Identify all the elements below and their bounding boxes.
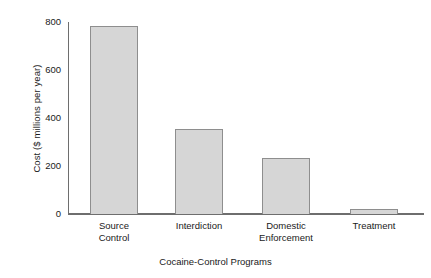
x-axis-title: Cocaine-Control Programs [0, 256, 431, 267]
x-category-label-line1: Domestic [266, 220, 306, 231]
x-category-label-interdiction: Interdiction [159, 220, 239, 232]
x-category-label-line1: Source [99, 220, 129, 231]
y-tick-label-200: 200 [33, 161, 61, 171]
x-category-label-line1: Interdiction [176, 220, 222, 231]
x-category-label-line2: Control [74, 232, 154, 244]
bar-chart: Cost ($ millions per year) 800 600 400 2… [0, 0, 431, 278]
y-tick-label-0: 0 [33, 209, 61, 219]
x-category-label-line1: Treatment [353, 220, 396, 231]
y-tick-label-600: 600 [33, 65, 61, 75]
y-tick-label-800: 800 [33, 17, 61, 27]
bar-treatment [350, 209, 398, 214]
x-category-label-source-control: Source Control [74, 220, 154, 243]
x-category-label-line2: Enforcement [239, 232, 333, 244]
y-tick-label-400: 400 [33, 113, 61, 123]
bar-domestic-enforcement [262, 158, 310, 214]
x-category-label-treatment: Treatment [334, 220, 414, 232]
y-axis-line [68, 22, 69, 214]
x-category-label-domestic-enforcement: Domestic Enforcement [239, 220, 333, 243]
bar-interdiction [175, 129, 223, 214]
bar-source-control [90, 26, 138, 214]
